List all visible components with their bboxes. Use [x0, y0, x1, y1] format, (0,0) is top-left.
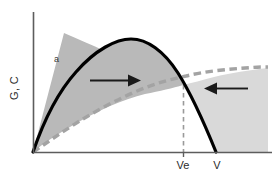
figure-container: G, C a Ve V: [0, 0, 276, 175]
net-loss-region-fill: [183, 68, 268, 152]
x-tick-label-v: V: [213, 159, 221, 171]
curve-annotation-a: a: [54, 54, 59, 64]
y-axis-label: G, C: [8, 76, 20, 100]
x-tick-label-ve: Ve: [177, 159, 190, 171]
plot-canvas: G, C a Ve V: [0, 0, 276, 175]
